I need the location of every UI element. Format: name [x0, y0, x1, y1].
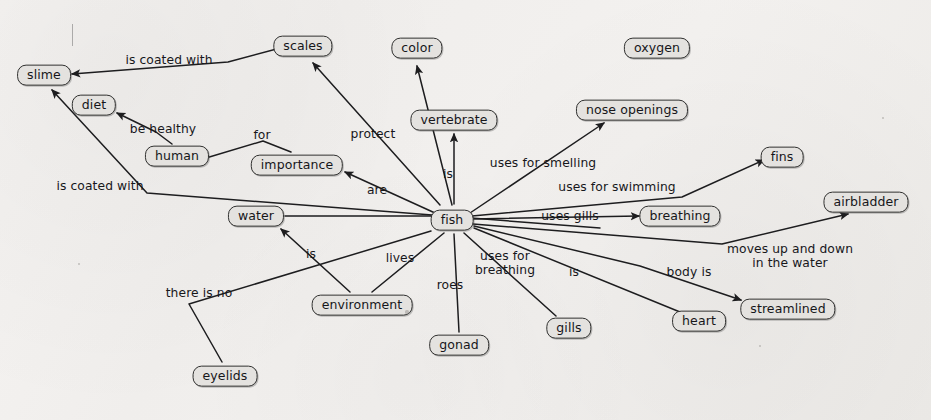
edge-label-fish-streamlined: body is — [667, 265, 712, 279]
node-streamlined[interactable]: streamlined — [740, 299, 835, 320]
node-gills[interactable]: gills — [546, 318, 591, 339]
edge-label-fish-airbladder: moves up and down in the water — [727, 242, 853, 270]
concept-map-canvas: slimediethumanscalescoloroxygenvertebrat… — [0, 0, 931, 420]
node-breathing[interactable]: breathing — [639, 206, 720, 227]
node-vertebrate[interactable]: vertebrate — [410, 110, 497, 131]
node-human[interactable]: human — [145, 146, 209, 167]
edge-label-water-slime: is coated with — [56, 179, 143, 193]
edge-fish-importance — [345, 172, 435, 213]
node-nose_openings[interactable]: nose openings — [576, 100, 688, 121]
node-slime[interactable]: slime — [17, 65, 71, 86]
edge-label-fish-vertebrate: is — [443, 167, 453, 181]
edge-label-fish-gonad: roes — [437, 278, 464, 292]
node-color[interactable]: color — [391, 38, 442, 59]
node-heart[interactable]: heart — [672, 311, 726, 332]
node-diet[interactable]: diet — [72, 95, 116, 116]
edge-label-eyelids-fish: there is no — [166, 286, 233, 300]
node-water[interactable]: water — [228, 206, 284, 227]
edge-label-fish-environment: lives — [386, 251, 415, 265]
node-airbladder[interactable]: airbladder — [823, 192, 908, 213]
edge-label-human-importance: for — [253, 128, 270, 142]
edge-label-scales-slime: is coated with — [125, 53, 212, 67]
scan-speck — [405, 310, 408, 313]
edge-group — [52, 47, 848, 362]
edge-label-fish-breathing: uses gills — [541, 209, 599, 223]
node-fish[interactable]: fish — [431, 210, 474, 231]
edge-label-fish-heart: is — [569, 265, 579, 279]
edge-label-environment-water: is — [306, 247, 316, 261]
edge-label-fish-importance: are — [367, 183, 387, 197]
node-importance[interactable]: importance — [251, 155, 343, 176]
edge-label-fish-fins: uses for swimming — [558, 180, 675, 194]
edge-label-fish-gills: uses for breathing — [475, 249, 535, 277]
node-gonad[interactable]: gonad — [429, 335, 489, 356]
node-eyelids[interactable]: eyelids — [193, 366, 258, 387]
node-scales[interactable]: scales — [273, 36, 332, 57]
edge-label-human-diet: be healthy — [130, 122, 196, 136]
edge-label-fish-scales: protect — [351, 127, 396, 141]
node-oxygen[interactable]: oxygen — [624, 38, 690, 59]
edge-label-fish-nose: uses for smelling — [490, 156, 596, 170]
node-fins[interactable]: fins — [761, 147, 804, 168]
node-environment[interactable]: environment — [312, 295, 413, 316]
